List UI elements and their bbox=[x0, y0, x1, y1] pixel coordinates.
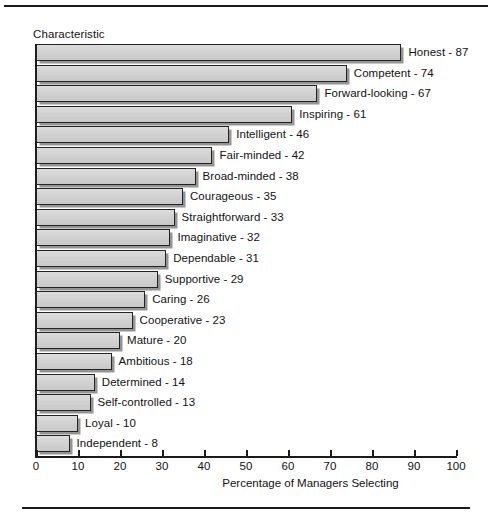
bar-label: Determined - 14 bbox=[102, 373, 185, 391]
y-axis-title: Characteristic bbox=[33, 28, 105, 40]
bar-label: Loyal - 10 bbox=[85, 414, 136, 432]
x-tick-label: 0 bbox=[33, 460, 39, 472]
bar-row: Determined - 14 bbox=[36, 374, 456, 394]
bar-self-controlled bbox=[36, 394, 91, 411]
bar-label: Dependable - 31 bbox=[173, 249, 259, 267]
bar-honest bbox=[36, 44, 401, 61]
bar-cooperative bbox=[36, 312, 133, 329]
x-tick-label: 90 bbox=[408, 460, 421, 472]
bar-inspiring bbox=[36, 106, 292, 123]
bar-dependable bbox=[36, 250, 166, 267]
bar-imaginative bbox=[36, 229, 170, 246]
x-tick-label: 50 bbox=[240, 460, 253, 472]
bar-row: Competent - 74 bbox=[36, 65, 456, 85]
bar-label: Caring - 26 bbox=[152, 290, 209, 308]
bar-row: Fair-minded - 42 bbox=[36, 147, 456, 167]
bar-row: Straightforward - 33 bbox=[36, 209, 456, 229]
bar-row: Supportive - 29 bbox=[36, 271, 456, 291]
bar-mature bbox=[36, 332, 120, 349]
bar-label: Independent - 8 bbox=[77, 434, 158, 452]
bar-courageous bbox=[36, 188, 183, 205]
bar-row: Intelligent - 46 bbox=[36, 126, 456, 146]
bar-label: Mature - 20 bbox=[127, 331, 186, 349]
bar-independent bbox=[36, 435, 70, 452]
x-tick-mark bbox=[246, 450, 248, 456]
bar-label: Fair-minded - 42 bbox=[219, 146, 304, 164]
x-tick-mark bbox=[456, 450, 458, 456]
x-tick-mark bbox=[120, 450, 122, 456]
bar-row: Mature - 20 bbox=[36, 332, 456, 352]
bar-row: Cooperative - 23 bbox=[36, 312, 456, 332]
bar-intelligent bbox=[36, 126, 229, 143]
x-tick-mark bbox=[162, 450, 164, 456]
bar-chart-figure: Characteristic Honest - 87Competent - 74… bbox=[0, 0, 491, 519]
bar-label: Intelligent - 46 bbox=[236, 125, 309, 143]
x-tick-mark bbox=[204, 450, 206, 456]
bar-row: Inspiring - 61 bbox=[36, 106, 456, 126]
bar-fair-minded bbox=[36, 147, 212, 164]
bar-label: Inspiring - 61 bbox=[299, 105, 366, 123]
bar-broad-minded bbox=[36, 168, 196, 185]
x-axis-line bbox=[36, 456, 457, 458]
bar-label: Competent - 74 bbox=[354, 64, 434, 82]
x-tick-mark bbox=[288, 450, 290, 456]
x-axis-title: Percentage of Managers Selecting bbox=[0, 477, 491, 489]
bar-label: Cooperative - 23 bbox=[140, 311, 226, 329]
x-tick-label: 70 bbox=[324, 460, 337, 472]
bar-label: Supportive - 29 bbox=[165, 270, 244, 288]
x-tick-label: 10 bbox=[72, 460, 85, 472]
bar-label: Self-controlled - 13 bbox=[98, 393, 196, 411]
bar-row: Imaginative - 32 bbox=[36, 229, 456, 249]
bar-label: Courageous - 35 bbox=[190, 187, 276, 205]
top-divider-rule bbox=[4, 5, 488, 7]
bar-supportive bbox=[36, 271, 158, 288]
bar-label: Broad-minded - 38 bbox=[203, 167, 299, 185]
bar-label: Straightforward - 33 bbox=[182, 208, 284, 226]
x-tick-label: 30 bbox=[156, 460, 169, 472]
x-tick-label: 20 bbox=[114, 460, 127, 472]
x-tick-label: 40 bbox=[198, 460, 211, 472]
bar-label: Ambitious - 18 bbox=[119, 352, 193, 370]
bar-row: Ambitious - 18 bbox=[36, 353, 456, 373]
x-tick-mark bbox=[78, 450, 80, 456]
bar-row: Honest - 87 bbox=[36, 44, 456, 64]
bar-label: Imaginative - 32 bbox=[177, 228, 260, 246]
bar-caring bbox=[36, 291, 145, 308]
bar-ambitious bbox=[36, 353, 112, 370]
bar-loyal bbox=[36, 415, 78, 432]
bar-row: Dependable - 31 bbox=[36, 250, 456, 270]
x-tick-mark bbox=[372, 450, 374, 456]
x-tick-label: 100 bbox=[446, 460, 465, 472]
x-tick-mark bbox=[414, 450, 416, 456]
bar-row: Self-controlled - 13 bbox=[36, 394, 456, 414]
bottom-divider-rule bbox=[22, 507, 470, 509]
bar-label: Honest - 87 bbox=[408, 43, 468, 61]
bar-determined bbox=[36, 374, 95, 391]
bar-row: Forward-looking - 67 bbox=[36, 85, 456, 105]
bar-row: Courageous - 35 bbox=[36, 188, 456, 208]
bar-row: Loyal - 10 bbox=[36, 415, 456, 435]
bar-straightforward bbox=[36, 209, 175, 226]
bar-forward-looking bbox=[36, 85, 317, 102]
bar-competent bbox=[36, 65, 347, 82]
x-tick-mark bbox=[36, 450, 38, 456]
bar-label: Forward-looking - 67 bbox=[324, 84, 430, 102]
plot-area: Honest - 87Competent - 74Forward-looking… bbox=[36, 44, 456, 456]
bar-row: Broad-minded - 38 bbox=[36, 168, 456, 188]
bar-row: Caring - 26 bbox=[36, 291, 456, 311]
x-tick-label: 60 bbox=[282, 460, 295, 472]
x-tick-mark bbox=[330, 450, 332, 456]
x-tick-label: 80 bbox=[366, 460, 379, 472]
